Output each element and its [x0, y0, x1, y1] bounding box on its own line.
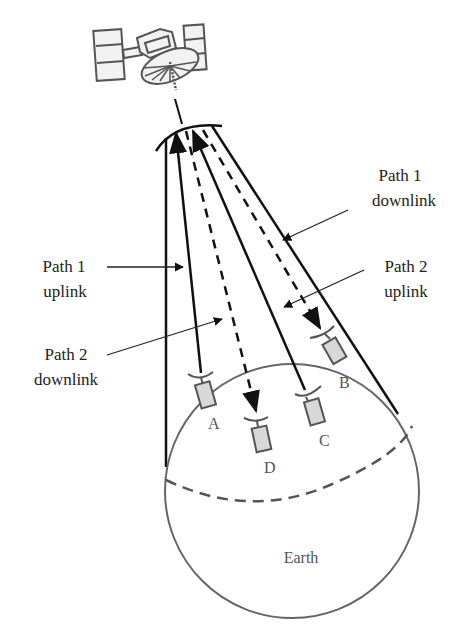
path1-downlink-line	[193, 131, 305, 390]
label-path1-uplink: Path 1 uplink	[43, 257, 88, 301]
label-path1-downlink: Path 1 downlink	[372, 166, 437, 210]
label-earth: Earth	[284, 549, 319, 566]
satellite-diagram: A B C D Path 1 downlink Path 1 uplink Pa…	[0, 0, 468, 624]
callout-path2-downlink	[107, 319, 222, 355]
station-d	[244, 417, 271, 452]
station-b	[310, 326, 346, 364]
path1-uplink-line	[176, 133, 201, 373]
svg-text:downlink: downlink	[34, 370, 99, 389]
station-label-c: C	[319, 432, 330, 449]
beam-center-line	[175, 99, 182, 124]
svg-text:uplink: uplink	[384, 282, 428, 301]
svg-text:downlink: downlink	[372, 191, 437, 210]
svg-text:Path 1: Path 1	[379, 166, 422, 185]
label-path2-downlink: Path 2 downlink	[34, 345, 99, 389]
station-a	[188, 372, 216, 408]
station-label-d: D	[264, 459, 276, 476]
station-label-b: B	[339, 374, 350, 391]
label-path2-uplink: Path 2 uplink	[384, 257, 428, 301]
station-label-a: A	[208, 415, 220, 432]
station-c	[295, 386, 325, 425]
callout-path1-downlink	[283, 210, 348, 240]
svg-text:uplink: uplink	[43, 282, 87, 301]
beam-edge-right	[212, 126, 398, 414]
svg-text:Path 2: Path 2	[45, 345, 88, 364]
svg-text:Path 2: Path 2	[385, 257, 428, 276]
svg-text:Path 1: Path 1	[43, 257, 86, 276]
footprint-horizon	[166, 426, 412, 501]
path2-downlink-line	[186, 131, 256, 411]
satellite-icon	[93, 24, 206, 91]
